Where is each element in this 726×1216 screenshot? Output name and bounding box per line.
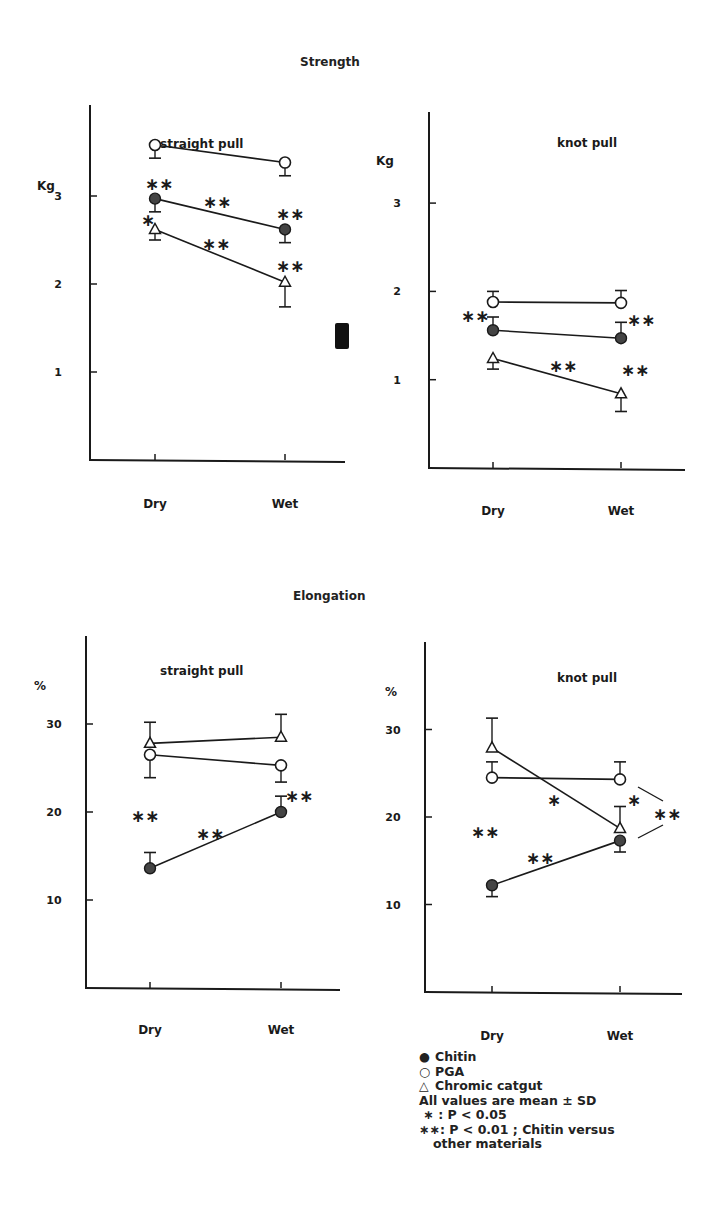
legend-note-p001: ∗∗: P < 0.01 ; Chitin versus [419,1123,615,1138]
series-pga [486,762,626,785]
significance-mark: ∗∗ [202,234,231,254]
filled-circle-icon: ● [419,1050,435,1065]
significance-mark: ∗∗ [627,310,656,330]
open-triangle-icon [276,731,287,741]
legend-label: PGA [435,1064,464,1079]
x-axis [90,460,345,462]
filled-circle-icon [150,193,161,204]
filled-circle-icon [487,880,498,891]
significance-mark: ∗∗ [131,806,160,826]
filled-circle-icon [616,333,627,344]
y-tick-label: 3 [54,190,62,203]
x-tick-label-wet: Wet [608,504,635,518]
open-circle-icon: ○ [419,1065,435,1080]
significance-mark: ∗∗ [203,192,232,212]
y-tick-label: 20 [46,806,62,819]
y-tick-label: 10 [385,899,401,912]
section-title-elongation: Elongation [293,589,365,603]
series-pga [144,749,287,782]
open-triangle-icon [145,737,156,747]
significance-mark: ∗∗ [461,306,490,326]
bracket-line [638,787,663,801]
y-axis-label: Kg [376,154,394,168]
series-line [150,755,281,766]
chart-panel-1: 123DryWetKgknot pull∗∗∗∗∗∗∗∗ [376,112,685,518]
y-tick-label: 1 [54,366,62,379]
y-tick-label: 2 [54,278,62,291]
y-tick-label: 3 [393,197,401,210]
y-tick-label: 30 [385,724,401,737]
y-axis-label: % [34,679,46,693]
x-tick-label-dry: Dry [481,504,505,518]
x-axis [425,992,682,994]
x-tick-label-wet: Wet [268,1023,295,1037]
legend-note-p005: ∗ : P < 0.05 [419,1108,615,1123]
open-triangle-icon: △ [419,1079,435,1094]
series-line [492,748,620,829]
x-tick-label-dry: Dry [480,1029,504,1043]
series-chitin [486,835,626,897]
series-chitin [487,317,627,344]
series-line [492,778,620,780]
legend-note-mean-sd: All values are mean ± SD [419,1094,615,1109]
open-circle-icon [615,774,626,785]
open-circle-icon [276,760,287,771]
chart-legend: ●Chitin ○PGA △Chromic catgut All values … [419,1050,615,1152]
panel-title: knot pull [557,136,617,150]
filled-circle-icon [615,835,626,846]
series-line [493,302,621,303]
open-triangle-icon [487,742,498,752]
series-pga [487,291,627,309]
y-axis-label: % [385,685,397,699]
x-tick-label-wet: Wet [607,1029,634,1043]
significance-mark: ∗∗ [549,356,578,376]
bracket-line [638,825,663,838]
x-tick-label-dry: Dry [143,497,167,511]
x-axis [86,988,340,990]
open-circle-icon [487,772,498,783]
y-tick-label: 30 [46,718,62,731]
legend-note-other-materials: other materials [419,1137,615,1152]
open-circle-icon [280,157,291,168]
significance-mark: ∗∗ [285,786,314,806]
open-circle-icon [616,297,627,308]
section-title-strength: Strength [300,55,360,69]
chart-panel-2: 102030DryWet%straight pull∗∗∗∗∗∗ [34,636,340,1037]
filled-circle-icon [280,224,291,235]
significance-mark: ∗∗ [276,256,305,276]
open-triangle-icon [615,822,626,832]
legend-item-catgut: △Chromic catgut [419,1079,615,1094]
series-chromic-catgut [486,718,626,832]
significance-mark: ∗∗ [276,204,305,224]
significance-mark: ∗∗ [653,804,682,824]
x-tick-label-dry: Dry [138,1023,162,1037]
panel-title: straight pull [160,664,243,678]
chart-panel-3: 102030DryWet%knot pull∗∗∗∗∗∗∗∗ [385,642,682,1043]
legend-label: Chromic catgut [435,1078,543,1093]
open-triangle-icon [488,353,499,363]
chart-figure: 123DryWetKgstraight pull∗∗∗∗∗∗∗∗∗∗∗123Dr… [0,0,726,1216]
x-axis [429,468,685,470]
filled-circle-icon [276,807,287,818]
open-circle-icon [150,139,161,150]
chart-panels: 123DryWetKgstraight pull∗∗∗∗∗∗∗∗∗∗∗123Dr… [34,105,685,1043]
y-tick-label: 2 [393,285,401,298]
series-chromic-catgut [144,714,287,747]
significance-mark: ∗∗ [471,822,500,842]
legend-label: Chitin [435,1049,477,1064]
significance-mark: ∗∗ [196,824,225,844]
significance-mark: ∗ [547,790,561,810]
y-axis-label: Kg [37,179,55,193]
series-line [493,330,621,338]
y-tick-label: 20 [385,811,401,824]
legend-item-chitin: ●Chitin [419,1050,615,1065]
panel-title: straight pull [160,137,243,151]
panel-title: knot pull [557,671,617,685]
significance-mark: ∗∗ [145,174,174,194]
open-circle-icon [145,749,156,760]
significance-mark: ∗ [141,210,155,230]
filled-circle-icon [488,325,499,336]
black-square-artifact [335,323,349,349]
y-tick-label: 1 [393,374,401,387]
significance-mark: ∗∗ [526,848,555,868]
